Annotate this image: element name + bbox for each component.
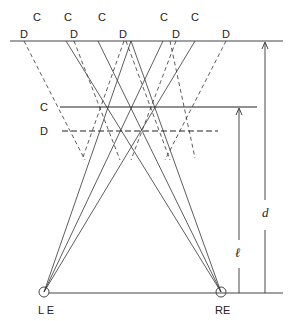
label-d-1: D <box>20 29 28 40</box>
stereo-diagram: C C C C C D D D D D C D d ℓ L E RE <box>0 0 293 321</box>
label-d-5: D <box>222 29 230 40</box>
label-c-3: C <box>98 12 106 23</box>
label-left-eye: L E <box>38 305 54 316</box>
label-d-2: D <box>70 29 78 40</box>
label-c-5: C <box>191 12 199 23</box>
right-eye-ray-c <box>131 41 221 292</box>
label-c-1: C <box>33 12 41 23</box>
ray-d-6 <box>170 41 195 158</box>
label-d-3: D <box>119 29 127 40</box>
ray-d-3 <box>82 41 124 160</box>
label-l-distance: ℓ <box>235 246 240 259</box>
left-eye-ray-c <box>44 41 163 292</box>
label-right-eye: RE <box>215 305 230 316</box>
right-eye-ray-c <box>98 41 221 292</box>
ray-d-7 <box>165 41 226 160</box>
ray-d-2 <box>74 41 120 160</box>
left-eye-ray-c <box>44 41 195 292</box>
label-d-plane: D <box>40 126 48 137</box>
label-c-4: C <box>160 12 168 23</box>
left-eye-ray-c <box>44 41 131 292</box>
label-d-4: D <box>172 29 180 40</box>
right-eye-ray-c <box>66 41 221 292</box>
label-d-distance: d <box>262 206 269 219</box>
diagram-lines <box>0 0 293 321</box>
label-c-2: C <box>64 12 72 23</box>
label-c-plane: C <box>40 102 48 113</box>
ray-d-1 <box>24 41 85 160</box>
